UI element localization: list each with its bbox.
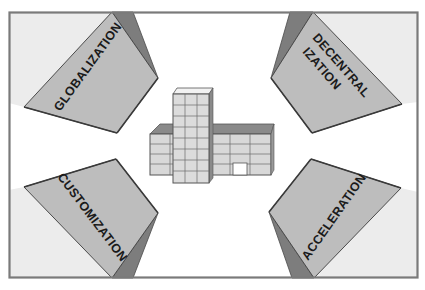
forces-diagram: GLOBALIZATION DECENTRAL IZATION CUSTOMIZ… [0,0,425,290]
door [233,163,247,175]
